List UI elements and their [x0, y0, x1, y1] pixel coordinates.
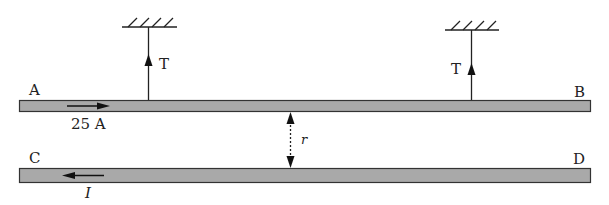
- right-tension-arrow-icon: [468, 63, 476, 75]
- right-ceiling-support: [445, 21, 499, 30]
- label-left-tension: T: [159, 55, 169, 73]
- label-current-25a: 25 A: [71, 115, 106, 133]
- label-c: C: [29, 149, 40, 167]
- parallel-wires-diagram: A B 25 A C D I T T r: [0, 0, 609, 205]
- left-tension-arrow-icon: [145, 54, 153, 66]
- label-a: A: [28, 81, 40, 99]
- label-current-i: I: [84, 184, 92, 202]
- separation-arrow-up-icon: [287, 112, 295, 124]
- label-separation-r: r: [301, 132, 308, 147]
- separation-arrow-down-icon: [287, 156, 295, 168]
- left-ceiling-support: [122, 18, 177, 27]
- label-right-tension: T: [451, 60, 461, 78]
- wire-cd: [20, 169, 591, 183]
- label-d: D: [573, 150, 585, 168]
- label-b: B: [574, 83, 585, 101]
